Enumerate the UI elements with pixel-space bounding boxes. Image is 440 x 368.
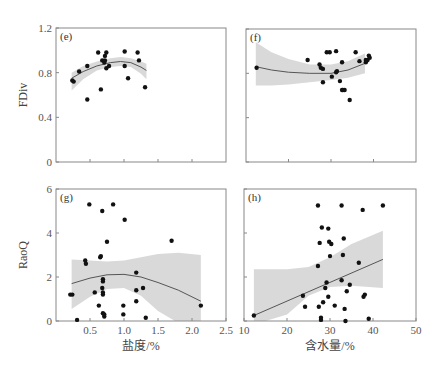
data-point — [141, 286, 145, 290]
data-point — [254, 66, 258, 70]
confidence-band — [72, 253, 201, 321]
data-point — [143, 85, 147, 89]
data-point — [330, 74, 334, 78]
data-point — [134, 299, 138, 303]
y-axis-title: FDiv — [16, 83, 30, 108]
data-point — [100, 209, 104, 213]
x-axis-title: 盐度/% — [122, 338, 159, 353]
data-point — [339, 278, 343, 282]
y-tick-label: 6 — [47, 183, 53, 195]
x-tick-label: 40 — [368, 324, 380, 336]
confidence-band — [72, 57, 147, 91]
data-point — [144, 316, 148, 320]
data-point — [324, 280, 328, 284]
data-point — [169, 239, 173, 243]
panel-g: 0.51.01.52.02.50246(g)盐度/%RaoQ — [16, 183, 233, 353]
x-tick-label: 1.0 — [117, 324, 131, 336]
data-point — [99, 254, 103, 258]
data-point — [342, 307, 346, 311]
data-point — [367, 317, 371, 321]
data-point — [348, 98, 352, 102]
data-point — [122, 64, 126, 68]
data-point — [363, 292, 367, 296]
x-tick-label: 30 — [325, 324, 337, 336]
data-point — [321, 67, 325, 71]
data-point — [75, 318, 79, 322]
y-tick-label: 0 — [47, 156, 53, 168]
data-point — [107, 64, 111, 68]
data-point — [85, 97, 89, 101]
data-point — [357, 261, 361, 265]
plot-frame — [56, 28, 226, 162]
panel-h: 1020304050(h)含水量/% — [239, 189, 423, 353]
data-point — [134, 270, 138, 274]
y-tick-label: 0.4 — [38, 111, 52, 123]
data-point — [122, 49, 126, 53]
data-point — [326, 295, 330, 299]
data-point — [333, 303, 337, 307]
data-point — [252, 313, 256, 317]
data-point — [77, 69, 81, 73]
panel-label: (f) — [250, 31, 261, 44]
y-tick-label: 0 — [47, 315, 53, 327]
data-point — [121, 303, 125, 307]
data-point — [342, 236, 346, 240]
panel-label: (h) — [248, 191, 261, 204]
data-point — [71, 79, 75, 83]
data-point — [100, 286, 104, 290]
data-point — [102, 60, 106, 64]
panel-label: (e) — [60, 30, 73, 43]
data-point — [199, 303, 203, 307]
figure: 00.40.81.2(e)FDiv (f) 0.51.01.52.02.5024… — [0, 0, 440, 368]
data-point — [121, 312, 125, 316]
data-point — [338, 79, 342, 83]
data-point — [357, 59, 361, 63]
data-point — [317, 241, 321, 245]
data-point — [316, 264, 320, 268]
data-point — [321, 300, 325, 304]
data-point — [340, 60, 344, 64]
data-point — [323, 286, 327, 290]
panel-f: (f) — [246, 29, 416, 162]
x-tick-label: 50 — [411, 324, 423, 336]
data-point — [305, 58, 309, 62]
panel-label: (g) — [60, 191, 73, 204]
confidence-band — [256, 42, 365, 85]
data-point — [321, 80, 325, 84]
data-point — [84, 262, 88, 266]
data-point — [99, 87, 103, 91]
data-point — [345, 289, 349, 293]
data-point — [101, 290, 105, 294]
x-tick-label: 1.5 — [151, 324, 165, 336]
data-point — [360, 208, 364, 212]
x-tick-label: 2.0 — [185, 324, 199, 336]
data-point — [334, 49, 338, 53]
data-point — [93, 290, 97, 294]
data-point — [320, 225, 324, 229]
y-tick-label: 0.8 — [38, 67, 52, 79]
data-point — [137, 58, 141, 62]
panel-e: 00.40.81.2(e)FDiv — [16, 22, 226, 168]
data-point — [316, 203, 320, 207]
data-point — [353, 50, 357, 54]
data-point — [301, 294, 305, 298]
data-point — [97, 303, 101, 307]
data-point — [122, 218, 126, 222]
y-tick-label: 1.2 — [38, 22, 52, 34]
data-point — [328, 254, 332, 258]
data-point — [111, 202, 115, 206]
data-point — [96, 50, 100, 54]
data-point — [104, 50, 108, 54]
x-tick-label: 10 — [239, 324, 251, 336]
data-point — [335, 69, 339, 73]
data-point — [70, 292, 74, 296]
y-tick-label: 4 — [47, 227, 53, 239]
data-point — [303, 305, 307, 309]
x-tick-label: 20 — [282, 324, 294, 336]
data-point — [134, 288, 138, 292]
x-tick-label: 0.5 — [83, 324, 97, 336]
data-point — [87, 202, 91, 206]
data-point — [381, 203, 385, 207]
y-tick-label: 2 — [47, 271, 53, 283]
x-axis-title: 含水量/% — [305, 338, 354, 353]
